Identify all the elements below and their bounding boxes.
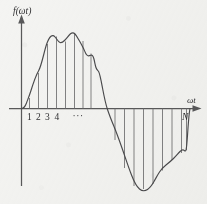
- y-axis-label: f(ωt): [13, 6, 31, 17]
- tick-label-4: 4: [55, 112, 60, 122]
- tick-label-3: 3: [45, 112, 50, 122]
- ellipsis-label: ···: [73, 111, 84, 121]
- figure-root: f(ωt) ωt N 1 2 3 4 ···: [0, 0, 207, 204]
- ordinate-lines-negative: [115, 109, 187, 190]
- x-axis-label: ωt: [187, 95, 196, 105]
- x-axis-arrowhead: [193, 105, 202, 112]
- tick-label-1: 1: [27, 112, 32, 122]
- last-ordinate-label: N: [181, 112, 189, 122]
- tick-label-2: 2: [36, 112, 41, 122]
- waveform-plot: f(ωt) ωt N 1 2 3 4 ···: [0, 0, 207, 204]
